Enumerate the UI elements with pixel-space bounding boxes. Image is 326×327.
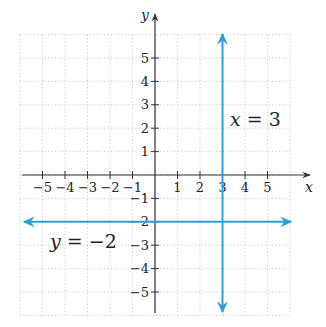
coordinate-plane-chart: −5−4−3−2−112345−5−4−3−2−112345 x y x = 3… xyxy=(0,0,326,327)
y-tick-label: −4 xyxy=(130,261,149,276)
label-x-equals-3: x = 3 xyxy=(230,108,281,130)
y-tick-label: 2 xyxy=(141,121,149,136)
x-tick-label: 4 xyxy=(241,180,249,195)
label-y-var: y xyxy=(49,230,61,252)
x-tick-label: 5 xyxy=(263,180,271,195)
x-tick-label: −2 xyxy=(100,180,119,195)
label-y-eq: = −2 xyxy=(61,230,117,252)
x-tick-label: 2 xyxy=(196,180,204,195)
y-tick-label: 1 xyxy=(141,144,149,159)
y-tick-label: −3 xyxy=(130,238,149,253)
x-tick-label: −3 xyxy=(78,180,97,195)
y-tick-label: 5 xyxy=(141,51,149,66)
plotted-lines xyxy=(24,34,291,312)
y-tick-label: −5 xyxy=(130,285,149,300)
label-y-equals-neg2: y = −2 xyxy=(49,230,117,252)
y-tick-label: −1 xyxy=(130,191,149,206)
y-axis-label: y xyxy=(140,7,150,23)
x-tick-label: −4 xyxy=(55,180,74,195)
y-tick-label: 4 xyxy=(141,74,149,89)
x-axis-label: x xyxy=(305,179,313,195)
x-tick-label: 1 xyxy=(173,180,181,195)
label-x-eq: = 3 xyxy=(241,108,281,130)
y-tick-label: 3 xyxy=(141,97,149,112)
label-x-var: x xyxy=(230,108,241,130)
axes xyxy=(22,14,310,313)
x-tick-label: −5 xyxy=(33,180,52,195)
